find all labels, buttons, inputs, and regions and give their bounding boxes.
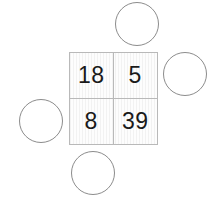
puzzle-canvas: 18 5 8 39 xyxy=(0,0,223,208)
circle-left[interactable] xyxy=(19,99,63,143)
grid-cell-top-right[interactable]: 5 xyxy=(114,53,158,99)
circle-right[interactable] xyxy=(163,52,207,96)
circle-top[interactable] xyxy=(115,2,159,46)
grid-cell-bottom-right[interactable]: 39 xyxy=(114,99,158,145)
number-grid: 18 5 8 39 xyxy=(69,52,158,145)
grid-cell-bottom-left[interactable]: 8 xyxy=(70,99,114,145)
grid-cell-top-left[interactable]: 18 xyxy=(70,53,114,99)
circle-bottom[interactable] xyxy=(71,151,115,195)
